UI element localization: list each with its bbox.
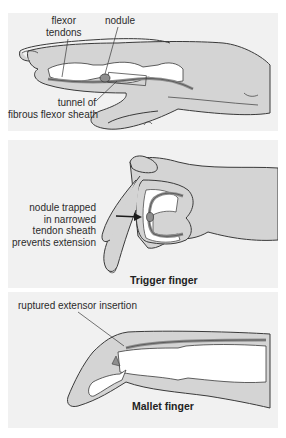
label-line: in narrowed (8, 214, 96, 226)
label-flexor-tendons: flexor tendons (46, 15, 82, 38)
label-line: nodule trapped (8, 202, 96, 214)
label-tunnel: tunnel of fibrous flexor sheath (8, 97, 96, 120)
label-nodule: nodule (105, 15, 135, 27)
panel-normal-finger: flexor tendons nodule tunnel of fibrous … (8, 13, 278, 131)
label-line: prevents extension (8, 237, 96, 249)
label-nodule-trapped: nodule trapped in narrowed tendon sheath… (8, 202, 96, 248)
label-line: tendons (46, 27, 82, 39)
panel-trigger-finger: nodule trapped in narrowed tendon sheath… (8, 140, 278, 288)
caption-trigger-finger: Trigger finger (130, 274, 198, 286)
panel-mallet-finger: ruptured extensor insertion Mallet finge… (8, 292, 278, 428)
label-line: tunnel of (8, 97, 96, 109)
label-line: flexor (46, 15, 82, 27)
label-ruptured-extensor: ruptured extensor insertion (18, 300, 137, 312)
label-line: tendon sheath (8, 225, 96, 237)
caption-mallet-finger: Mallet finger (132, 400, 194, 412)
label-line: fibrous flexor sheath (8, 109, 96, 121)
